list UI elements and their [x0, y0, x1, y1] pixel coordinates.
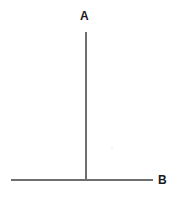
line-segment-a — [85, 32, 87, 181]
line-segment-b — [11, 179, 153, 181]
label-a: A — [80, 10, 89, 22]
diagram-canvas: A B — [0, 0, 175, 198]
raster-speckle — [111, 147, 113, 150]
label-b: B — [158, 174, 167, 186]
